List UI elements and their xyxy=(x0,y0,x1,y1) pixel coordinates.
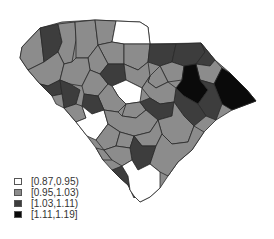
legend-swatch xyxy=(14,200,22,207)
legend-item: [1.11,1.19] xyxy=(14,209,79,220)
legend-item: [0.95,1.03) xyxy=(14,187,79,198)
legend-label: [1.03,1.11) xyxy=(31,198,78,209)
county xyxy=(52,94,64,108)
legend-swatch xyxy=(14,211,22,218)
legend-item: [1.03,1.11) xyxy=(14,198,79,209)
legend-label: [0.95,1.03) xyxy=(31,187,79,198)
legend-label: [0.87,0.95) xyxy=(31,176,79,187)
county xyxy=(112,21,150,44)
legend-label: [1.11,1.19] xyxy=(31,209,78,220)
legend-item: [0.87,0.95) xyxy=(14,176,79,187)
map-figure: [0.87,0.95) [0.95,1.03) [1.03,1.11) [1.1… xyxy=(0,0,274,239)
legend-swatch xyxy=(14,189,22,196)
legend-swatch xyxy=(14,178,22,185)
map-legend: [0.87,0.95) [0.95,1.03) [1.03,1.11) [1.1… xyxy=(14,176,79,220)
